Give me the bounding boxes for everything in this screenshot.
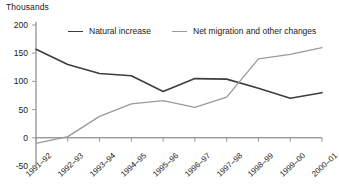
series-line-natural-increase: [36, 49, 322, 98]
